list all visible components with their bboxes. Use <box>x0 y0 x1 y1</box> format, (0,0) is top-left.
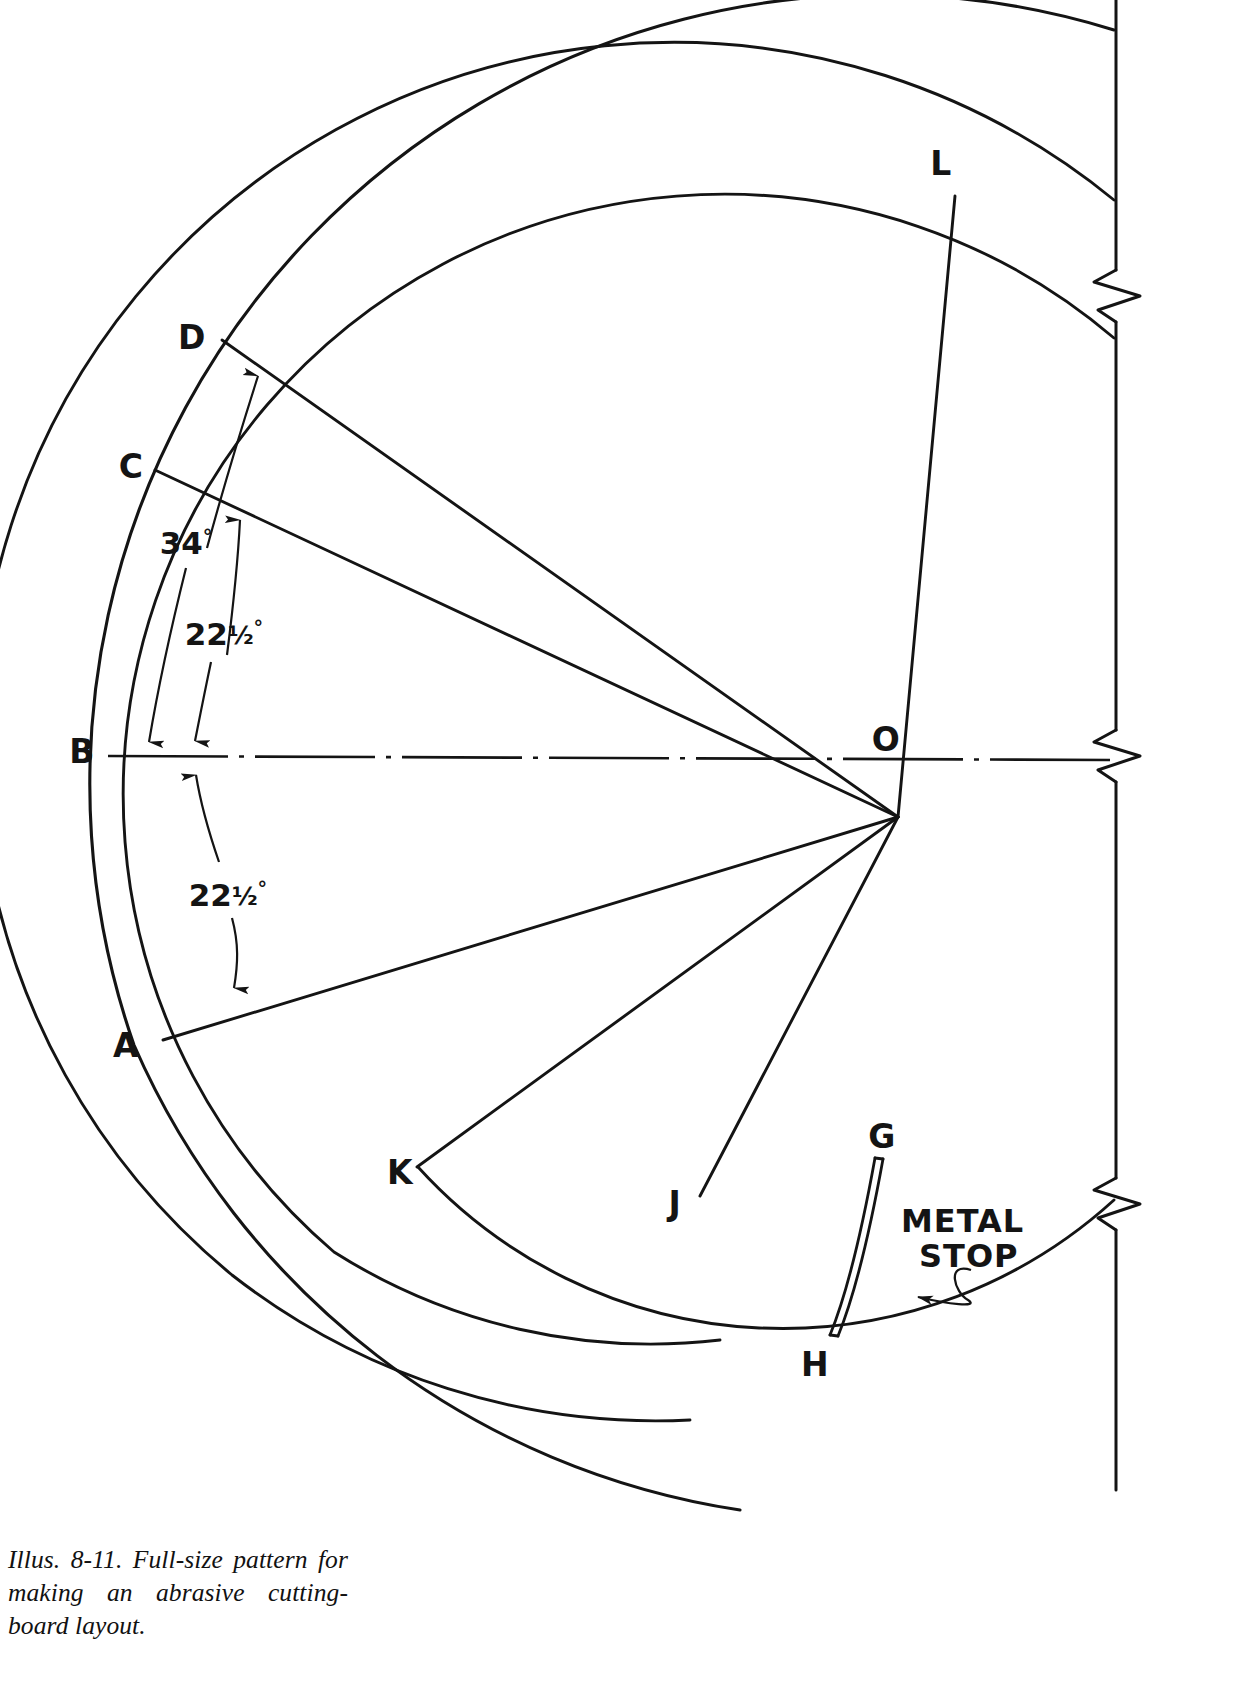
dimension-value-22-upper: 22 <box>185 616 228 652</box>
break-symbol-lower <box>1094 1178 1140 1230</box>
point-label-B: B <box>69 732 95 771</box>
radial-line-O-A <box>163 817 898 1040</box>
break-symbol-middle <box>1094 730 1140 782</box>
figure-caption: Illus. 8-11. Full-size pattern for makin… <box>8 1543 348 1642</box>
metal-stop-edge-inner <box>838 1159 883 1336</box>
point-label-H: H <box>801 1345 829 1384</box>
centerline-dash-dot <box>108 756 1116 760</box>
dim-arrow-22h-low-up <box>196 775 219 862</box>
arc-third-r592 <box>123 194 1114 1344</box>
metal-stop-line-2: STOP <box>901 1239 1024 1274</box>
dimension-label-22half-upper: 22½° <box>185 616 263 652</box>
degree-symbol-22-lower: ° <box>258 877 268 900</box>
radial-line-O-K <box>417 817 898 1167</box>
radial-lines-group <box>155 196 955 1196</box>
degree-symbol-22-upper: ° <box>254 616 264 639</box>
dim-arrow-34-upper <box>207 376 258 548</box>
centerline-group <box>108 756 1116 760</box>
dimension-fraction-lower: ½ <box>232 882 258 911</box>
point-label-J: J <box>669 1184 682 1223</box>
point-label-O: O <box>872 720 901 759</box>
degree-symbol-34: ° <box>203 525 213 548</box>
radial-line-O-L <box>898 196 955 817</box>
radial-line-O-D <box>222 340 898 817</box>
right-edge-line-group <box>1094 0 1140 1490</box>
metal-stop-annotation: METAL STOP <box>901 1204 1024 1273</box>
metal-stop-strip <box>830 1158 883 1336</box>
point-label-K: K <box>387 1153 413 1192</box>
pattern-drawing <box>0 0 1234 1685</box>
point-label-C: C <box>119 447 144 486</box>
dimension-label-34-degrees: 34° <box>160 525 213 561</box>
dimension-value-22-lower: 22 <box>189 877 232 913</box>
metal-stop-edge-outer <box>830 1158 875 1335</box>
point-label-G: G <box>868 1117 896 1156</box>
dim-arrow-22h-low-down <box>232 918 237 988</box>
dim-arrow-22h-lower <box>195 662 211 741</box>
dimension-value-34: 34 <box>160 525 203 561</box>
point-label-L: L <box>930 144 952 183</box>
point-label-D: D <box>178 318 206 357</box>
dimension-fraction-upper: ½ <box>228 621 254 650</box>
third-arc-group <box>123 194 1114 1344</box>
dimension-label-22half-lower: 22½° <box>189 877 267 913</box>
metal-stop-line-1: METAL <box>901 1202 1024 1240</box>
point-label-A: A <box>113 1026 139 1065</box>
metal-stop-cap-bottom <box>830 1335 838 1336</box>
break-symbol-top <box>1094 270 1140 322</box>
metal-stop-cap-top <box>875 1158 883 1159</box>
dim-arrow-34-lower <box>149 568 186 742</box>
figure-canvas: D C B A K J H G L O 34° 22½° 22½° METAL … <box>0 0 1234 1685</box>
radial-line-O-C <box>155 470 898 817</box>
